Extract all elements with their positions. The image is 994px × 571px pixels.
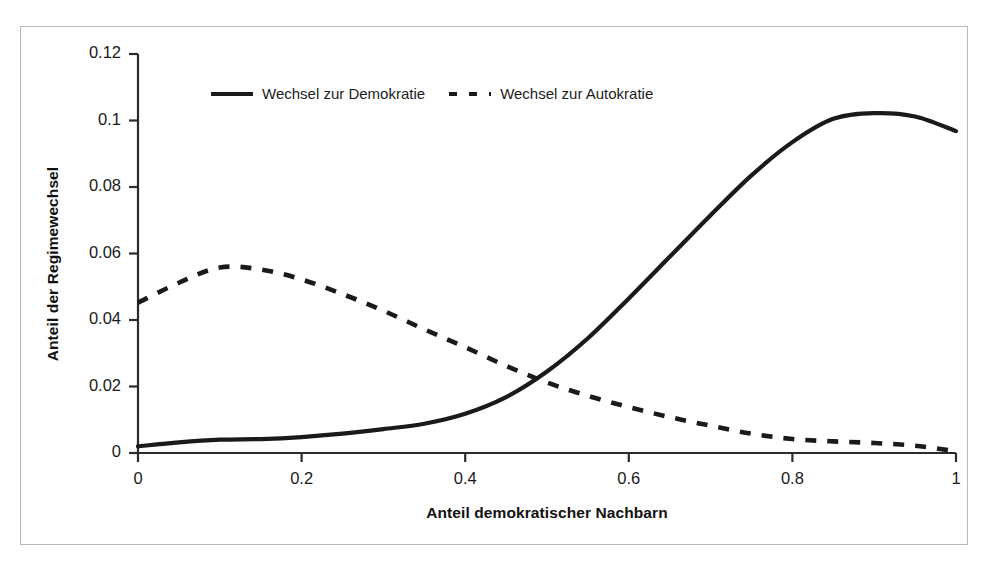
x-tick-label: 0 xyxy=(103,469,173,488)
legend-label-1: Wechsel zur Autokratie xyxy=(500,86,653,101)
x-tick-label: 0.4 xyxy=(430,469,500,488)
chart-plot-area: 00.020.040.060.080.10.12 00.20.40.60.81 … xyxy=(21,27,969,546)
x-tick-label: 0.2 xyxy=(267,469,337,488)
y-axis-title: Anteil der Regimewechsel xyxy=(44,84,62,444)
x-tick-label: 0.6 xyxy=(594,469,664,488)
x-axis-ticks xyxy=(138,453,956,462)
x-tick-label: 1 xyxy=(921,469,991,488)
y-tick-label: 0.12 xyxy=(51,43,121,62)
x-tick-label: 0.8 xyxy=(757,469,827,488)
y-tick-label: 0 xyxy=(51,442,121,461)
chart-legend: Wechsel zur Demokratie Wechsel zur Autok… xyxy=(211,86,653,101)
figure-frame: 00.020.040.060.080.10.12 00.20.40.60.81 … xyxy=(20,26,968,545)
series-line-wechsel-zur-autokratie xyxy=(138,267,956,452)
x-axis-title: Anteil demokratischer Nachbarn xyxy=(138,504,956,522)
y-axis-ticks xyxy=(129,54,138,453)
axes-group xyxy=(138,54,956,453)
legend-entry-wechsel-zur-demokratie[interactable]: Wechsel zur Demokratie xyxy=(211,86,425,101)
series-line-wechsel-zur-demokratie xyxy=(138,113,956,446)
legend-swatch-solid-icon xyxy=(211,92,253,96)
legend-entry-wechsel-zur-autokratie[interactable]: Wechsel zur Autokratie xyxy=(449,86,653,101)
legend-label-0: Wechsel zur Demokratie xyxy=(262,86,425,101)
legend-swatch-dashed-icon xyxy=(449,92,491,96)
